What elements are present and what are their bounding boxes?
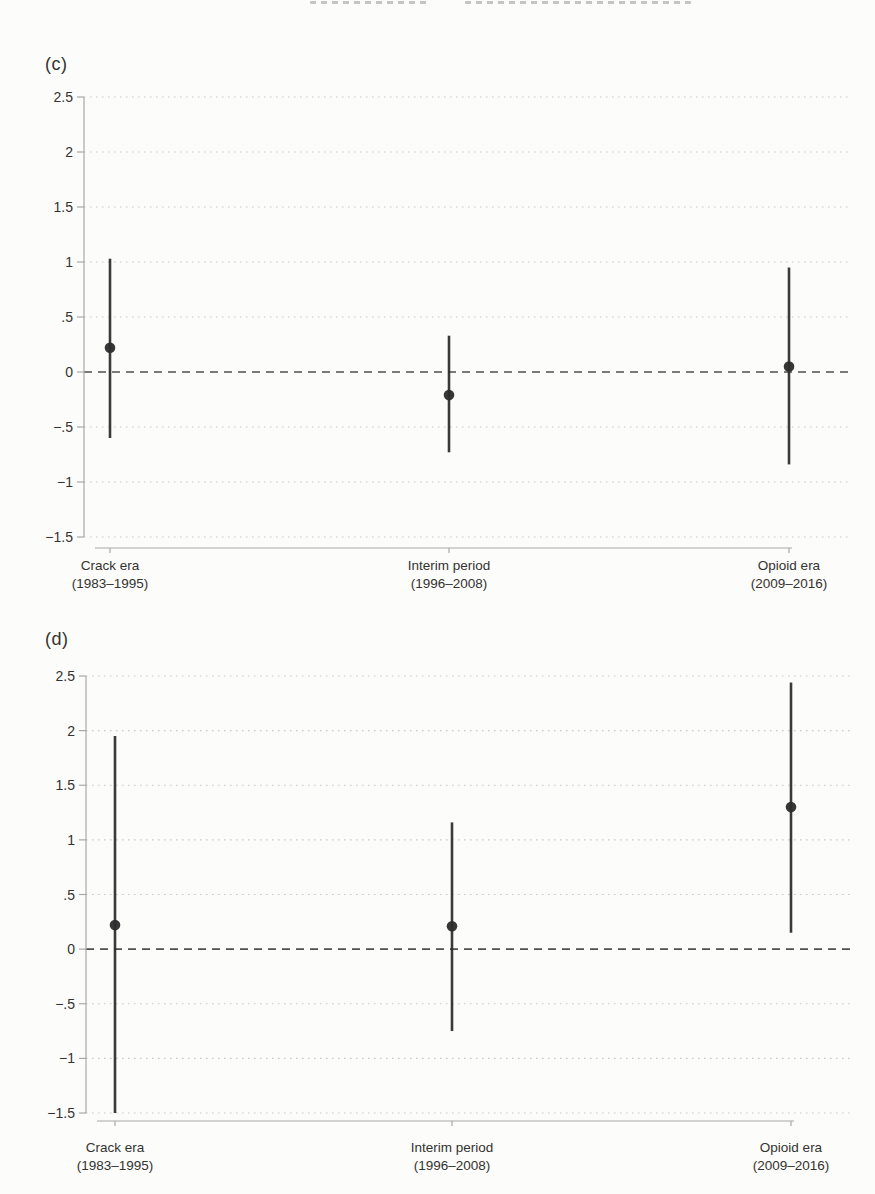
panel-d: (d) 2.521.51.50−.5−1−1.5Crack era(1983–1… bbox=[0, 615, 875, 1194]
panel-c: (c) 2.521.51.50−.5−1−1.5Crack era(1983–1… bbox=[0, 40, 875, 615]
y-tick-label: 2.5 bbox=[56, 668, 76, 684]
x-category-label: Crack era(1983–1995) bbox=[77, 1140, 154, 1173]
point-estimate-marker bbox=[110, 920, 121, 931]
y-tick-label: −.5 bbox=[55, 996, 75, 1012]
x-category-label: Crack era(1983–1995) bbox=[72, 558, 149, 591]
point-estimate-marker bbox=[447, 921, 458, 932]
x-category-label: Opioid era(2009–2016) bbox=[753, 1140, 830, 1173]
cropped-header-text-fragment bbox=[310, 1, 428, 4]
y-tick-label: .5 bbox=[61, 309, 73, 325]
y-tick-label: 2 bbox=[65, 144, 73, 160]
x-category-label: Interim period(1996–2008) bbox=[411, 1140, 494, 1173]
scanned-figure-page: (c) 2.521.51.50−.5−1−1.5Crack era(1983–1… bbox=[0, 0, 875, 1194]
cropped-header-text bbox=[0, 0, 875, 6]
y-tick-label: −.5 bbox=[53, 419, 73, 435]
y-tick-label: 1 bbox=[65, 254, 73, 270]
y-tick-label: 1.5 bbox=[56, 777, 76, 793]
coefficient-plot-c: 2.521.51.50−.5−1−1.5Crack era(1983–1995)… bbox=[0, 40, 875, 615]
x-category-label: Opioid era(2009–2016) bbox=[751, 558, 828, 591]
y-tick-label: 1 bbox=[67, 832, 75, 848]
point-estimate-marker bbox=[784, 361, 795, 372]
x-category-label: Interim period(1996–2008) bbox=[408, 558, 491, 591]
y-tick-label: 2 bbox=[67, 723, 75, 739]
y-tick-label: −1.5 bbox=[47, 1105, 75, 1121]
point-estimate-marker bbox=[444, 390, 455, 401]
y-tick-label: 0 bbox=[65, 364, 73, 380]
cropped-header-text-fragment bbox=[465, 1, 691, 4]
y-tick-label: 1.5 bbox=[54, 199, 74, 215]
y-tick-label: −1.5 bbox=[45, 529, 73, 545]
y-tick-label: −1 bbox=[57, 474, 73, 490]
y-tick-label: −1 bbox=[59, 1050, 75, 1066]
y-tick-label: 2.5 bbox=[54, 89, 74, 105]
coefficient-plot-d: 2.521.51.50−.5−1−1.5Crack era(1983–1995)… bbox=[0, 615, 875, 1194]
y-tick-label: .5 bbox=[63, 887, 75, 903]
y-tick-label: 0 bbox=[67, 941, 75, 957]
point-estimate-marker bbox=[786, 802, 797, 813]
point-estimate-marker bbox=[105, 343, 116, 354]
